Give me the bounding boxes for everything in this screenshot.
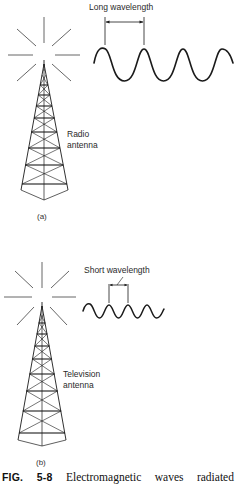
caption-fig-number: 5-8 [37, 471, 53, 483]
electromagnetic-waves-figure: Long wavelength Radio antenna (a) Short … [0, 0, 235, 487]
radio-antenna-label-line1: Radio [67, 129, 89, 139]
caption-word-3: radiated [197, 471, 234, 483]
panel-b-label: (b) [36, 458, 46, 467]
television-antenna-label-line1: Television [63, 369, 100, 379]
caption-word-2: waves [155, 471, 184, 483]
radio-tower-icon [21, 60, 68, 200]
caption-fig-word: FIG. [2, 471, 23, 483]
short-wave [83, 304, 164, 318]
long-wave [94, 48, 233, 81]
short-wavelength-dimension [109, 277, 128, 303]
long-wavelength-dimension [105, 17, 144, 45]
panel-a-label: (a) [37, 212, 47, 221]
television-antenna-label-line2: antenna [63, 380, 94, 390]
figure-caption: FIG. 5-8 Electromagnetic waves radiated [2, 471, 234, 483]
television-tower-icon [18, 302, 66, 446]
long-wavelength-label: Long wavelength [89, 2, 153, 12]
caption-word-1: Electromagnetic [66, 471, 141, 483]
figure-drawing [0, 0, 235, 487]
short-wavelength-label: Short wavelength [84, 265, 150, 275]
radio-antenna-label-line2: antenna [67, 140, 98, 150]
